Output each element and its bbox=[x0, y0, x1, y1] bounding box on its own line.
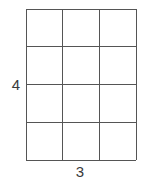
height-dimension-label: 4 bbox=[9, 77, 23, 92]
width-dimension-label: 3 bbox=[66, 164, 94, 179]
grid-area-diagram: 4 3 bbox=[0, 0, 145, 185]
grid-horizontal-lines bbox=[26, 9, 136, 160]
grid-lines-svg bbox=[0, 0, 145, 185]
